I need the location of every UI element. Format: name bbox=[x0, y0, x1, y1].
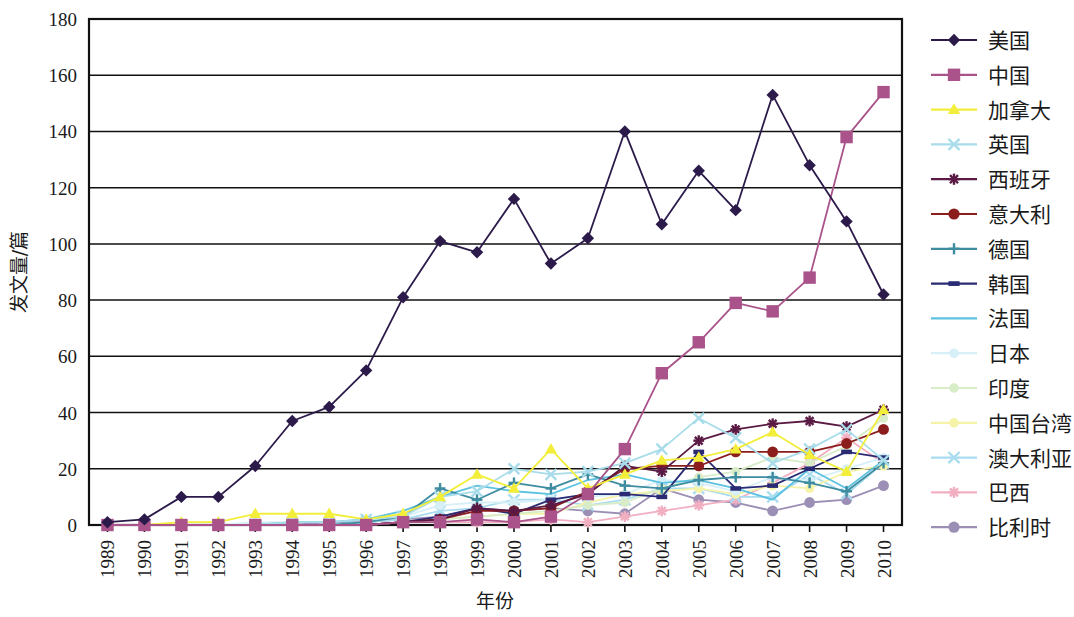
legend-item-西班牙[interactable]: 西班牙 bbox=[931, 168, 1051, 192]
data-point-marker bbox=[878, 424, 889, 435]
x-tick-label: 2007 bbox=[763, 540, 784, 578]
data-point-marker bbox=[730, 486, 741, 491]
data-point-marker bbox=[471, 513, 483, 525]
data-point-marker bbox=[803, 271, 815, 283]
data-point-marker bbox=[582, 488, 594, 500]
data-point-marker bbox=[841, 438, 852, 449]
y-tick-label: 100 bbox=[49, 234, 78, 255]
legend-item-美国[interactable]: 美国 bbox=[931, 29, 1030, 53]
data-point-marker bbox=[804, 416, 815, 427]
x-tick-label: 2001 bbox=[541, 540, 562, 578]
data-point-marker bbox=[804, 467, 815, 472]
data-point-marker bbox=[948, 34, 960, 46]
legend-item-印度[interactable]: 印度 bbox=[931, 377, 1030, 401]
data-point-marker bbox=[472, 503, 483, 514]
legend-item-日本[interactable]: 日本 bbox=[931, 342, 1030, 366]
data-point-marker bbox=[948, 522, 959, 533]
data-point-marker bbox=[545, 510, 557, 522]
x-tick-label: 1993 bbox=[245, 540, 266, 578]
legend-label: 比利时 bbox=[988, 516, 1051, 540]
data-point-marker bbox=[949, 348, 959, 358]
legend-label: 韩国 bbox=[988, 273, 1030, 297]
data-point-marker bbox=[656, 367, 668, 379]
data-point-marker bbox=[583, 501, 592, 510]
data-point-marker bbox=[949, 383, 959, 393]
data-point-marker bbox=[804, 497, 815, 508]
data-point-marker bbox=[175, 519, 187, 531]
legend-label: 意大利 bbox=[988, 203, 1051, 227]
x-tick-label: 1994 bbox=[282, 540, 303, 579]
legend-label: 加拿大 bbox=[988, 99, 1051, 123]
y-axis-title: 发文量/篇 bbox=[8, 231, 30, 313]
x-tick-label: 1990 bbox=[134, 540, 155, 578]
x-tick-label: 1997 bbox=[393, 540, 414, 578]
x-tick-label: 1989 bbox=[97, 540, 118, 578]
legend-label: 西班牙 bbox=[988, 168, 1051, 192]
y-tick-label: 160 bbox=[49, 65, 78, 86]
data-point-marker bbox=[767, 483, 778, 488]
legend-item-意大利[interactable]: 意大利 bbox=[931, 203, 1051, 227]
legend-item-德国[interactable]: 德国 bbox=[931, 238, 1030, 262]
legend-label: 美国 bbox=[988, 29, 1030, 53]
legend-label: 英国 bbox=[988, 133, 1030, 157]
data-point-marker bbox=[286, 519, 298, 531]
data-point-marker bbox=[619, 492, 630, 497]
x-tick-label: 2010 bbox=[874, 540, 895, 578]
y-tick-label: 0 bbox=[68, 515, 78, 536]
data-point-marker bbox=[767, 506, 778, 517]
data-point-marker bbox=[656, 495, 667, 500]
data-point-marker bbox=[323, 519, 335, 531]
legend-item-中国[interactable]: 中国 bbox=[931, 64, 1030, 88]
data-point-marker bbox=[582, 517, 593, 528]
legend-label: 法国 bbox=[988, 307, 1030, 331]
data-point-marker bbox=[656, 466, 667, 477]
x-tick-label: 1991 bbox=[171, 540, 192, 578]
data-point-marker bbox=[360, 519, 372, 531]
legend-item-英国[interactable]: 英国 bbox=[931, 133, 1030, 157]
data-point-marker bbox=[508, 516, 520, 528]
data-point-marker bbox=[546, 500, 557, 511]
data-point-marker bbox=[619, 511, 630, 522]
x-tick-label: 1992 bbox=[208, 540, 229, 578]
chart-figure: 020406080100120140160180 198919901991199… bbox=[0, 0, 1074, 617]
x-tick-label: 2009 bbox=[837, 540, 858, 578]
data-point-marker bbox=[948, 174, 959, 185]
data-point-marker bbox=[693, 500, 704, 511]
legend-item-法国[interactable]: 法国 bbox=[931, 307, 1030, 331]
data-point-marker bbox=[619, 443, 631, 455]
data-point-marker bbox=[766, 305, 778, 317]
x-tick-label: 2002 bbox=[578, 540, 599, 578]
legend-label: 日本 bbox=[988, 342, 1030, 366]
plot-background bbox=[89, 19, 902, 525]
legend-label: 巴西 bbox=[988, 481, 1030, 505]
legend-label: 澳大利亚 bbox=[988, 447, 1072, 471]
data-point-marker bbox=[249, 519, 261, 531]
x-tick-label: 1999 bbox=[467, 540, 488, 578]
legend-item-中国台湾[interactable]: 中国台湾 bbox=[931, 412, 1072, 436]
data-point-marker bbox=[509, 506, 520, 517]
x-tick-label: 1998 bbox=[430, 540, 451, 578]
data-point-marker bbox=[948, 69, 960, 81]
legend-item-加拿大[interactable]: 加拿大 bbox=[931, 99, 1051, 123]
y-tick-label: 40 bbox=[58, 403, 77, 424]
data-point-marker bbox=[212, 519, 224, 531]
legend-item-比利时[interactable]: 比利时 bbox=[931, 516, 1051, 540]
legend-item-澳大利亚[interactable]: 澳大利亚 bbox=[931, 447, 1072, 471]
y-tick-label: 80 bbox=[58, 290, 77, 311]
data-point-marker bbox=[840, 131, 852, 143]
legend-label: 印度 bbox=[988, 377, 1030, 401]
x-tick-label: 2006 bbox=[726, 540, 747, 578]
legend-label: 中国 bbox=[988, 64, 1030, 88]
data-point-marker bbox=[693, 461, 704, 472]
data-point-marker bbox=[841, 450, 852, 455]
data-point-marker bbox=[948, 281, 959, 286]
data-point-marker bbox=[948, 487, 959, 498]
legend-item-巴西[interactable]: 巴西 bbox=[931, 481, 1030, 505]
data-point-marker bbox=[693, 435, 704, 446]
x-tick-label: 2004 bbox=[652, 540, 673, 579]
x-tick-label: 2000 bbox=[504, 540, 525, 578]
data-point-marker bbox=[434, 516, 446, 528]
y-tick-label: 180 bbox=[49, 9, 78, 30]
y-tick-label: 140 bbox=[49, 121, 78, 142]
legend-item-韩国[interactable]: 韩国 bbox=[931, 273, 1030, 297]
